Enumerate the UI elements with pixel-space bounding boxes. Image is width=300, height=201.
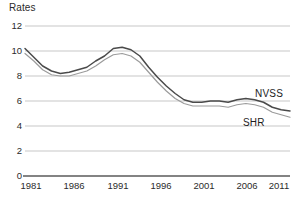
series-line-shr [25, 54, 290, 118]
plot-area [0, 0, 300, 201]
gridlines [25, 26, 290, 151]
series-label-nvss: NVSS [255, 88, 283, 99]
series-line-nvss [25, 47, 290, 111]
line-chart: Rates 12 10 8 6 4 2 0 1981 1986 1991 199… [0, 0, 300, 201]
series-label-shr: SHR [243, 117, 265, 128]
data-series-group [25, 47, 290, 117]
